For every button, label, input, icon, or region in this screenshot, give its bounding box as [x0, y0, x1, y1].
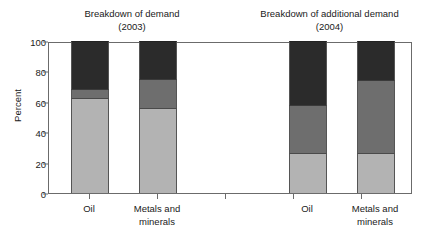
bar-2003-metals-segment-middle	[139, 79, 177, 108]
bar-2003-oil-segment-bottom	[71, 98, 109, 193]
panel-title-left-line2: (2003)	[42, 21, 222, 34]
bar-2003-oil-segment-top	[71, 41, 109, 89]
bar-2004-oil-segment-middle	[289, 105, 327, 153]
bar-2004-metals-segment-bottom	[357, 153, 395, 193]
x-tick-mark-3	[293, 194, 294, 199]
x-label-2003-metals: Metals and minerals	[112, 203, 202, 228]
bar-2003-oil	[71, 41, 109, 193]
panel-title-right: Breakdown of additional demand (2004)	[232, 8, 427, 33]
x-label-2003-metals-line1: Metals and	[112, 203, 202, 216]
x-label-2004-metals-line2: minerals	[330, 216, 420, 229]
x-tick-mark-1	[157, 194, 158, 199]
bar-2004-oil-segment-bottom	[289, 153, 327, 193]
x-label-2004-metals-line1: Metals and	[330, 203, 420, 216]
bar-2004-metals-segment-middle	[357, 80, 395, 153]
panel-title-left: Breakdown of demand (2003)	[42, 8, 222, 33]
bar-2003-metals-segment-bottom	[139, 108, 177, 193]
y-tick-label-20: 20	[0, 158, 46, 169]
x-label-2004-metals: Metals and minerals	[330, 203, 420, 228]
y-tick-label-0: 0	[0, 189, 46, 200]
x-tick-mark-4	[361, 194, 362, 199]
plot-area	[48, 42, 412, 194]
bar-2004-oil-segment-top	[289, 41, 327, 105]
panel-title-left-line1: Breakdown of demand	[42, 8, 222, 21]
x-label-2003-metals-line2: minerals	[112, 216, 202, 229]
x-tick-mark-2	[225, 194, 226, 199]
y-tick-label-40: 40	[0, 128, 46, 139]
panel-title-right-line2: (2004)	[232, 21, 427, 34]
x-tick-mark-0	[89, 194, 90, 199]
stacked-bar-chart-figure: Breakdown of demand (2003) Breakdown of …	[0, 0, 431, 242]
y-tick-label-60: 60	[0, 97, 46, 108]
bar-2004-metals	[357, 41, 395, 193]
panel-title-right-line1: Breakdown of additional demand	[232, 8, 427, 21]
bar-2003-oil-segment-middle	[71, 89, 109, 98]
bar-2004-oil	[289, 41, 327, 193]
bar-2004-metals-segment-top	[357, 41, 395, 80]
y-tick-label-100: 100	[0, 37, 46, 48]
y-tick-label-80: 80	[0, 67, 46, 78]
bar-2003-metals	[139, 41, 177, 193]
bar-2003-metals-segment-top	[139, 41, 177, 79]
